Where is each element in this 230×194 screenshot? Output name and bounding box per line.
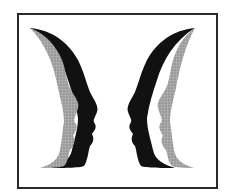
- left-profile: [30, 28, 97, 168]
- left-profile-gray-layer: [30, 28, 78, 168]
- right-profile: [128, 28, 195, 168]
- facing-profiles-illustration: [0, 0, 230, 194]
